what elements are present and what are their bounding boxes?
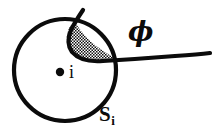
phi-curve-label: ϕ (128, 18, 153, 45)
region-label-base: S (99, 102, 111, 126)
center-point-dot (56, 68, 64, 76)
figure-container: ϕ Si i (0, 0, 215, 138)
region-label: Si (99, 104, 115, 127)
region-label-subscript: i (111, 113, 115, 128)
center-point-label: i (69, 63, 74, 81)
